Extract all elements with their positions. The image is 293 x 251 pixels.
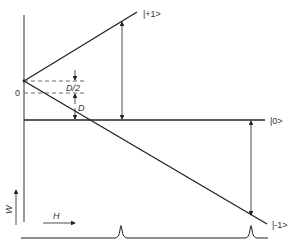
energy-axis-label: W	[4, 204, 14, 214]
state-zero-label: |0>	[270, 116, 283, 126]
energy-level-diagram: |+1> |0> |-1> 0 D/2 D W H	[0, 0, 293, 251]
splitting-label: D	[78, 103, 85, 113]
half-splitting-label: D/2	[66, 83, 80, 93]
state-minus1-label: |-1>	[272, 220, 288, 230]
level-plus1-line	[24, 12, 137, 81]
field-axis-label: H	[53, 211, 60, 221]
spectrum-trace	[21, 226, 268, 239]
origin-label: 0	[15, 88, 20, 98]
state-plus1-label: |+1>	[143, 9, 161, 19]
level-minus1-line	[24, 81, 267, 224]
